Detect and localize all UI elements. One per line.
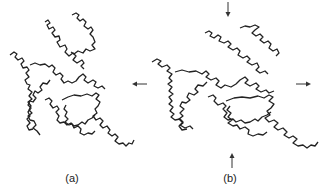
panel-label-a: (a)	[65, 172, 78, 184]
fractal-diagram: .c{fill:none;stroke:#222;stroke-width:1.…	[0, 0, 324, 193]
arrow-right	[296, 82, 311, 87]
arrow-up	[230, 153, 235, 168]
figure: .c{fill:none;stroke:#222;stroke-width:1.…	[0, 0, 324, 193]
fractal-curve-a	[10, 13, 134, 146]
arrow-down	[226, 2, 231, 17]
panel-label-b: (b)	[223, 172, 236, 184]
arrow-left	[132, 82, 147, 87]
fractal-curve-b	[152, 25, 318, 148]
